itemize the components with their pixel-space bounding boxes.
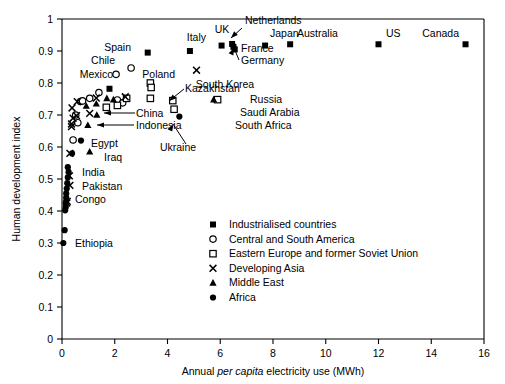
legend-label-central_south_america: Central and South America (229, 233, 355, 245)
y-tick-label: 0 (47, 333, 53, 345)
point-label-spain: Spain (104, 41, 131, 53)
marker-central-and-south-america (70, 137, 76, 143)
marker-central-and-south-america (113, 71, 119, 77)
point-label-chile: Chile (91, 54, 115, 66)
marker-eastern-europe-and-former-soviet-union (171, 106, 177, 112)
marker-africa (78, 138, 84, 144)
x-tick-label: 16 (478, 347, 490, 359)
y-axis-title: Human development index (10, 116, 22, 242)
marker-africa (63, 194, 69, 200)
y-tick-label: 0.6 (38, 141, 53, 153)
point-label-netherlands: Netherlands (245, 14, 302, 26)
scatter-chart: 024681012141600.10.20.30.40.50.60.70.80.… (0, 0, 505, 384)
point-label-italy: Italy (187, 31, 207, 43)
legend-label-africa: Africa (229, 291, 256, 303)
marker-africa (65, 174, 71, 180)
leader-arrowhead (104, 110, 111, 115)
marker-legend-middle_east (209, 279, 216, 286)
marker-industrialised-countries (287, 41, 293, 47)
marker-industrialised-countries (145, 50, 151, 56)
point-label-uk: UK (215, 23, 230, 35)
x-tick-label: 12 (373, 347, 385, 359)
marker-africa (62, 207, 68, 213)
marker-africa (60, 240, 66, 246)
x-axis-title: Annual per capita electricity use (MWh) (182, 365, 365, 377)
y-tick-label: 0.3 (38, 237, 53, 249)
y-tick-label: 0.2 (38, 269, 53, 281)
point-label-canada: Canada (422, 27, 459, 39)
point-label-saudi-arabia: Saudi Arabia (240, 106, 300, 118)
point-label-ethiopia: Ethiopia (75, 237, 113, 249)
marker-middle-east (103, 95, 110, 102)
marker-eastern-europe-and-former-soviet-union (114, 102, 120, 108)
marker-eastern-europe-and-former-soviet-union (148, 84, 154, 90)
marker-africa (64, 180, 70, 186)
axis-lines (62, 19, 484, 339)
marker-africa (62, 227, 68, 233)
x-tick-label: 6 (217, 347, 223, 359)
x-tick-label: 14 (425, 347, 437, 359)
marker-legend-africa (210, 294, 216, 300)
point-label-france: France (241, 42, 274, 54)
x-tick-label: 0 (59, 347, 65, 359)
point-label-australia: Australia (297, 27, 338, 39)
marker-developing-asia (86, 110, 93, 117)
legend-label-middle_east: Middle East (229, 276, 284, 288)
y-tick-label: 0.4 (38, 205, 53, 217)
leader-arrowhead (97, 122, 104, 127)
marker-industrialised-countries (106, 86, 112, 92)
x-tick-label: 8 (270, 347, 276, 359)
marker-developing-asia (193, 67, 200, 74)
y-tick-label: 0.1 (38, 301, 53, 313)
point-label-china: China (136, 107, 164, 119)
marker-middle-east (84, 121, 91, 128)
marker-legend-developing_asia (210, 265, 217, 272)
point-label-ukraine: Ukraine (160, 141, 196, 153)
point-label-japan: Japan (270, 27, 299, 39)
point-label-mexico: Mexico (80, 68, 113, 80)
point-label-russia: Russia (250, 93, 282, 105)
point-label-pakistan: Pakistan (82, 180, 122, 192)
marker-eastern-europe-and-former-soviet-union (103, 104, 109, 110)
x-tick-label: 2 (112, 347, 118, 359)
legend-label-industrialised: Industrialised countries (229, 218, 336, 230)
y-tick-label: 0.8 (38, 77, 53, 89)
x-tick-label: 4 (165, 347, 171, 359)
y-tick-label: 0.7 (38, 109, 53, 121)
marker-industrialised-countries (187, 48, 193, 54)
point-label-egypt: Egypt (91, 137, 118, 149)
y-tick-label: 0.5 (38, 173, 53, 185)
legend-label-developing_asia: Developing Asia (229, 262, 304, 274)
point-label-indonesia: Indonesia (136, 119, 182, 131)
marker-central-and-south-america (128, 65, 134, 71)
marker-central-and-south-america (86, 95, 92, 101)
point-label-congo: Congo (75, 193, 106, 205)
marker-africa (69, 150, 75, 156)
marker-industrialised-countries (376, 41, 382, 47)
point-label-india: India (82, 166, 105, 178)
marker-developing-asia (69, 105, 76, 112)
y-tick-label: 0.9 (38, 45, 53, 57)
marker-africa (65, 169, 71, 175)
marker-industrialised-countries (219, 43, 225, 49)
point-label-kazakhstan: Kazakhstan (185, 82, 240, 94)
point-label-south-africa: South Africa (235, 119, 292, 131)
point-label-iraq: Iraq (104, 151, 122, 163)
marker-legend-central_south_america (210, 236, 216, 242)
legend-label-eastern_europe: Eastern Europe and former Soviet Union (229, 247, 418, 259)
marker-legend-eastern_europe (210, 251, 216, 257)
x-tick-label: 10 (320, 347, 332, 359)
y-tick-label: 1 (47, 13, 53, 25)
marker-industrialised-countries (463, 41, 469, 47)
point-label-poland: Poland (142, 68, 175, 80)
marker-middle-east (93, 111, 100, 118)
point-label-germany: Germany (241, 54, 285, 66)
marker-eastern-europe-and-former-soviet-union (147, 95, 153, 101)
chart-canvas: 024681012141600.10.20.30.40.50.60.70.80.… (0, 0, 505, 384)
marker-legend-industrialised (210, 222, 216, 228)
point-label-us: US (386, 27, 401, 39)
